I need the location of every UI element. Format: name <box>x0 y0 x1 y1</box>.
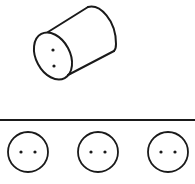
option-c-dot-left <box>159 150 162 153</box>
option-b-dot-left <box>89 150 92 153</box>
option-c[interactable] <box>148 132 188 172</box>
option-c-dot-right <box>173 150 176 153</box>
option-c-circle <box>148 132 188 172</box>
option-b-circle <box>78 132 118 172</box>
option-b[interactable] <box>78 132 118 172</box>
option-a-circle <box>8 132 48 172</box>
cylinder-back-arc <box>88 7 116 51</box>
cylinder-face-dots <box>51 48 55 67</box>
face-dot-top <box>51 48 54 51</box>
cylinder-bottom-edge <box>68 51 114 75</box>
option-b-dot-right <box>103 150 106 153</box>
cylinder-front-face <box>26 26 79 86</box>
option-a-dot-left <box>19 150 22 153</box>
option-a-dot-right <box>33 150 36 153</box>
cylinder-top-edge <box>48 7 88 32</box>
puzzle-diagram <box>0 0 195 184</box>
option-a[interactable] <box>8 132 48 172</box>
face-dot-bottom <box>52 64 55 67</box>
cylinder-figure <box>26 7 116 86</box>
